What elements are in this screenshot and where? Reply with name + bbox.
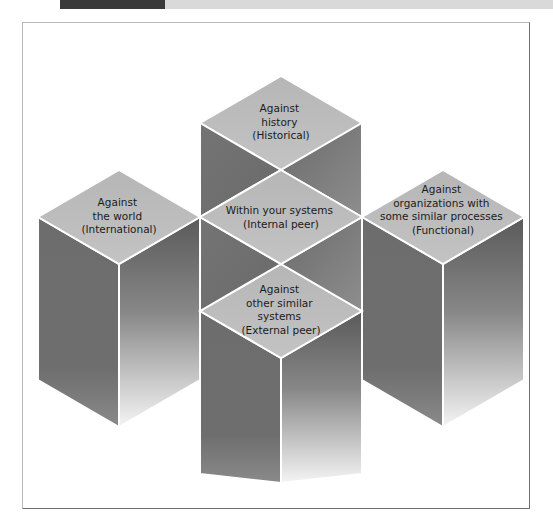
page-header-strip-light xyxy=(165,0,553,9)
figure-frame: Against history (Historical) Against the… xyxy=(22,22,530,509)
cube-functional[interactable]: Against organizations with some similar … xyxy=(362,170,524,427)
cube-international[interactable]: Against the world (International) xyxy=(38,170,200,427)
isometric-diagram: Against history (Historical) Against the… xyxy=(23,23,531,510)
page-header-strip-dark xyxy=(60,0,165,9)
page-header-strip-left-margin xyxy=(0,0,60,9)
